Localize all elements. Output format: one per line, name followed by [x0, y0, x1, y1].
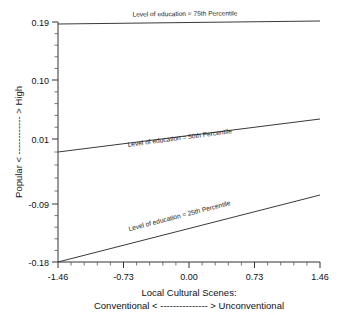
chart-background [0, 0, 339, 315]
x-axis-subtitle: Conventional < --------------- > Unconve… [94, 300, 284, 311]
y-tick-label: -0.18 [28, 258, 49, 268]
chart-figure: 0.19 0.10 0.01 -0.09 -0.18 [0, 0, 339, 315]
y-tick-label: 0.01 [31, 135, 49, 145]
y-tick-label: -0.09 [28, 200, 49, 210]
x-axis-title: Local Cultural Scenes: [141, 287, 236, 298]
y-axis-title: Popular < ------------ > High [13, 86, 24, 198]
x-tick-label: 0.73 [246, 272, 264, 282]
y-tick-label: 0.10 [31, 76, 49, 86]
y-tick-label: 0.19 [31, 18, 49, 28]
x-tick-label: 1.46 [311, 272, 329, 282]
x-tick-label: -1.46 [48, 272, 69, 282]
chart-svg: 0.19 0.10 0.01 -0.09 -0.18 [0, 0, 339, 315]
x-tick-label: 0.00 [180, 272, 198, 282]
series-label-75th: Level of education = 75th Percentile [132, 9, 237, 17]
x-tick-label: -0.73 [113, 272, 134, 282]
